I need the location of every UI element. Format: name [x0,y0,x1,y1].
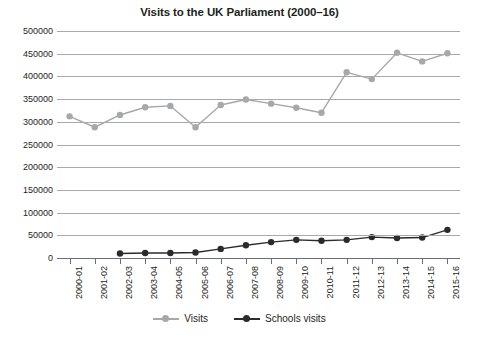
data-point [343,237,349,243]
x-tick-label: 2002-03 [124,266,134,299]
y-tick-label: 450000 [1,49,53,59]
x-tick [170,258,171,264]
data-point [318,110,324,116]
data-point [318,238,324,244]
chart-figure: Visits to the UK Parliament (2000–16) 50… [0,0,479,337]
data-point [192,249,198,255]
data-point [167,103,173,109]
gridline [57,235,460,236]
series-line [120,230,447,254]
data-point [243,242,249,248]
x-tick-label: 2010-11 [325,266,335,298]
y-tick-label: 250000 [1,140,53,150]
series-line [70,53,448,127]
x-axis-ticks [57,258,460,264]
legend-dot-icon [243,315,250,322]
y-tick-label: 300000 [1,117,53,127]
x-tick-label: 2011-12 [351,266,361,298]
gridline [57,99,460,100]
x-tick-label: 2004-05 [174,266,184,299]
data-point [142,104,148,110]
x-axis-labels: 2000-012001-022002-032003-042004-052005-… [57,266,460,318]
data-point [142,250,148,256]
x-tick [271,258,272,264]
data-point [167,250,173,256]
gridline [57,31,460,32]
x-tick [372,258,373,264]
y-tick-label: 0 [1,253,53,263]
x-tick [196,258,197,264]
data-point [419,58,425,64]
x-tick-label: 2014-15 [426,266,436,299]
x-tick-label: 2015-16 [451,266,461,299]
x-tick-label: 2009-10 [300,266,310,299]
legend-swatch [234,314,260,323]
data-point [218,102,224,108]
data-point [92,124,98,130]
y-tick-label: 500000 [1,26,53,36]
y-tick-label: 350000 [1,94,53,104]
legend-label: Schools visits [265,313,326,324]
gridline [57,190,460,191]
chart-title: Visits to the UK Parliament (2000–16) [0,6,479,18]
plot-area [57,31,460,258]
data-point [268,100,274,106]
data-point [117,112,123,118]
x-tick [246,258,247,264]
x-tick [221,258,222,264]
data-point [268,239,274,245]
x-tick [397,258,398,264]
data-point [117,250,123,256]
gridline [57,145,460,146]
x-tick [95,258,96,264]
data-point [444,227,450,233]
y-axis-labels: 5000004500004000003500003000002500002000… [0,31,53,258]
x-tick [296,258,297,264]
x-tick-label: 2007-08 [250,266,260,299]
x-tick-label: 2000-01 [74,266,84,299]
legend-entry[interactable]: Visits [153,313,208,324]
x-tick-label: 2012-13 [376,266,386,299]
x-tick-label: 2003-04 [149,266,159,299]
y-tick-label: 400000 [1,71,53,81]
data-point [192,124,198,130]
chart-legend: VisitsSchools visits [0,313,479,324]
data-point [66,113,72,119]
x-tick-label: 2008-09 [275,266,285,299]
x-tick [321,258,322,264]
x-tick-label: 2006-07 [225,266,235,299]
gridline [57,76,460,77]
x-tick-label: 2005-06 [200,266,210,299]
x-tick [422,258,423,264]
x-tick [145,258,146,264]
gridline [57,54,460,55]
legend-swatch [153,314,179,323]
gridline [57,167,460,168]
y-tick-label: 50000 [1,230,53,240]
gridline [57,122,460,123]
y-tick-label: 150000 [1,185,53,195]
data-point [218,246,224,252]
x-tick-label: 2001-02 [99,266,109,299]
x-tick [447,258,448,264]
legend-label: Visits [184,313,208,324]
gridline [57,213,460,214]
legend-dot-icon [162,315,169,322]
y-tick-label: 200000 [1,162,53,172]
x-tick-label: 2013-14 [401,266,411,299]
x-tick [120,258,121,264]
data-point [293,237,299,243]
data-point [293,105,299,111]
data-point [343,69,349,75]
legend-entry[interactable]: Schools visits [234,313,326,324]
x-tick [70,258,71,264]
y-tick-label: 100000 [1,208,53,218]
x-tick [347,258,348,264]
